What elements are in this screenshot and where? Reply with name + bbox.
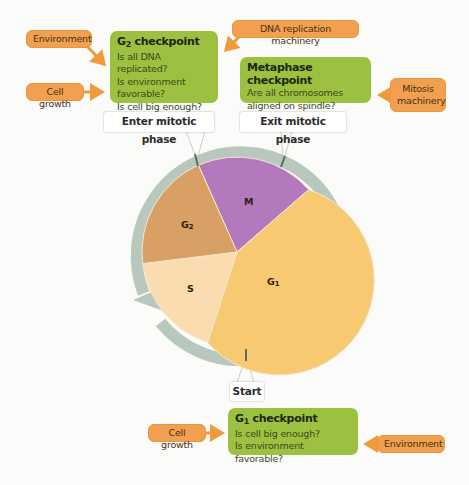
g2-checkpoint-title: G2 checkpoint [117, 35, 211, 51]
metaphase-question-1a: Are all chromosomes [247, 87, 364, 100]
start-label: Start [230, 382, 264, 401]
metaphase-checkpoint-title: Metaphase checkpoint [247, 61, 364, 87]
mitosis-machinery-line-2: machinery [397, 95, 439, 107]
g2-question-3: Is cell big enough? [117, 101, 211, 114]
g2-question-2b: favorable? [117, 88, 211, 101]
environment-input-bottom: Environment [377, 435, 445, 453]
label-g1-sub: 1 [275, 280, 280, 288]
cell-growth-input-top: Cell growth [26, 83, 84, 101]
g2-title-base: G [117, 35, 126, 48]
g2-checkpoint-box: G2 checkpoint Is all DNA replicated? Is … [110, 31, 218, 103]
enter-mitotic-phase-label: Enter mitotic phase [104, 112, 214, 132]
g1-question-2: Is environment favorable? [235, 440, 351, 465]
label-g1: G1 [267, 276, 280, 288]
label-g1-base: G [267, 276, 275, 287]
g1-checkpoint-box: G1 checkpoint Is cell big enough? Is env… [228, 408, 358, 455]
metaphase-question-1b: aligned on spindle? [247, 100, 364, 113]
exit-mitotic-phase-label: Exit mitotic phase [240, 112, 346, 132]
label-g2-base: G [181, 219, 189, 230]
mitosis-machinery-input: Mitosis machinery [390, 78, 446, 112]
label-s: S [187, 283, 194, 294]
cell-growth-input-bottom: Cell growth [148, 424, 206, 442]
label-g2-sub: 2 [189, 223, 194, 231]
g1-title-base: G [235, 412, 244, 425]
g2-question-2a: Is environment [117, 76, 211, 89]
cell-cycle-diagram: M G2 S G1 Enter mitotic phase Exit mitot… [0, 0, 469, 485]
label-m: M [244, 196, 253, 207]
environment-input-top: Environment [26, 30, 92, 48]
dna-replication-machinery-input: DNA replication machinery [232, 20, 359, 38]
label-g2: G2 [181, 219, 194, 231]
metaphase-checkpoint-box: Metaphase checkpoint Are all chromosomes… [240, 57, 371, 103]
g1-title-rest: checkpoint [249, 412, 317, 425]
g1-checkpoint-title: G1 checkpoint [235, 412, 351, 428]
g2-question-1: Is all DNA replicated? [117, 51, 211, 76]
g2-title-rest: checkpoint [131, 35, 199, 48]
mitosis-machinery-line-1: Mitosis [397, 83, 439, 95]
g1-question-1: Is cell big enough? [235, 428, 351, 441]
